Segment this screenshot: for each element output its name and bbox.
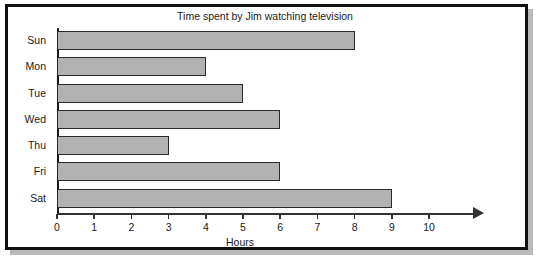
bar-row: [57, 29, 477, 55]
x-axis-arrow-icon: [473, 207, 484, 219]
y-axis-tick-label: Wed: [0, 108, 52, 134]
x-axis-tick-label: 3: [157, 221, 181, 233]
bar-fri: [57, 162, 280, 181]
x-axis-tick-label: 1: [82, 221, 106, 233]
y-axis-tick-label: Fri: [0, 160, 52, 186]
x-axis-tick: [168, 214, 170, 219]
bar-wed: [57, 110, 280, 129]
x-axis-tick: [131, 214, 133, 219]
chart-image: Time spent by Jim watching television Su…: [0, 0, 539, 262]
bar-thu: [57, 136, 169, 155]
bar-row: [57, 82, 477, 108]
x-axis-tick: [205, 214, 207, 219]
x-axis-tick: [428, 214, 430, 219]
x-axis-tick-label: 8: [343, 221, 367, 233]
bar-series: [57, 29, 477, 213]
x-axis-tick: [317, 214, 319, 219]
x-axis-title: Hours: [150, 236, 330, 248]
x-axis-tick-label: 0: [45, 221, 69, 233]
x-axis-tick: [93, 214, 95, 219]
x-axis-tick: [242, 214, 244, 219]
y-axis-tick-label: Mon: [0, 55, 52, 81]
x-axis-tick-label: 6: [268, 221, 292, 233]
y-axis-tick-label: Tue: [0, 82, 52, 108]
x-axis-tick: [354, 214, 356, 219]
x-axis-tick-label: 7: [305, 221, 329, 233]
y-axis-tick-label: Thu: [0, 134, 52, 160]
x-axis-tick: [56, 214, 58, 219]
bar-sun: [57, 31, 355, 50]
bar-sat: [57, 189, 392, 208]
bar-row: [57, 160, 477, 186]
bar-row: [57, 108, 477, 134]
x-axis-tick: [279, 214, 281, 219]
x-axis-tick-label: 9: [380, 221, 404, 233]
bar-row: [57, 55, 477, 81]
bar-tue: [57, 84, 243, 103]
chart-title: Time spent by Jim watching television: [60, 10, 470, 22]
x-axis-tick-label: 10: [417, 221, 441, 233]
bar-mon: [57, 57, 206, 76]
x-axis-line: [57, 213, 477, 215]
bar-row: [57, 187, 477, 213]
bar-chart: Time spent by Jim watching television Su…: [0, 0, 539, 262]
y-axis-tick-label: Sat: [0, 187, 52, 213]
y-axis-category-labels: Sun Mon Tue Wed Thu Fri Sat: [0, 29, 52, 213]
x-axis-tick-label: 4: [194, 221, 218, 233]
x-axis-tick-label: 5: [231, 221, 255, 233]
x-axis-tick: [391, 214, 393, 219]
x-axis-tick-label: 2: [119, 221, 143, 233]
y-axis-tick-label: Sun: [0, 29, 52, 55]
bar-row: [57, 134, 477, 160]
